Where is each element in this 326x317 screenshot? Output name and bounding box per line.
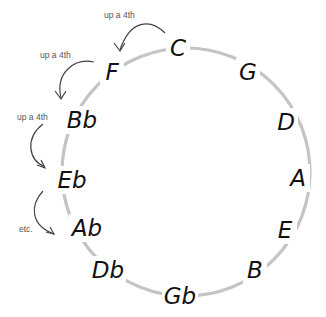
note-b: B — [247, 257, 263, 283]
circle-of-fifths-diagram: C G D A E B Gb Db Ab Eb Bb F up a 4th up… — [0, 0, 326, 317]
note-f: F — [105, 59, 119, 85]
arrow-label-etc: etc. — [19, 224, 33, 234]
arrow-eb-to-ab: etc. — [19, 191, 54, 234]
note-c: C — [170, 35, 186, 61]
note-a: A — [288, 165, 306, 191]
note-e: E — [278, 217, 293, 243]
arrow-label-up-a-4th: up a 4th — [17, 112, 48, 122]
arrow-f-to-bb: up a 4th — [40, 50, 94, 99]
note-bb: Bb — [67, 107, 97, 133]
arrow-bb-to-eb: up a 4th — [17, 112, 48, 168]
arrow-c-to-f: up a 4th — [104, 10, 165, 51]
arrow-label-up-a-4th: up a 4th — [40, 50, 71, 60]
note-d: D — [277, 109, 295, 135]
note-eb: Eb — [57, 167, 86, 193]
arrow-label-up-a-4th: up a 4th — [104, 10, 135, 20]
note-ab: Ab — [70, 215, 102, 241]
note-gb: Gb — [164, 283, 196, 309]
note-db: Db — [92, 257, 124, 283]
note-labels: C G D A E B Gb Db Ab Eb Bb F — [57, 35, 305, 309]
note-g: G — [239, 59, 257, 85]
